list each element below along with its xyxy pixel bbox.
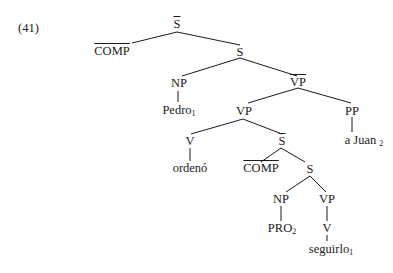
- node-np-subject: NP: [171, 76, 187, 90]
- node-s-inner: S: [307, 162, 314, 176]
- leaf-pro: PRO2: [268, 221, 296, 239]
- node-pp: PP: [345, 104, 359, 118]
- leaf-seguirlo: seguirlo1: [309, 242, 353, 260]
- node-np-inner: NP: [273, 192, 289, 206]
- node-v-inner: V: [322, 221, 331, 235]
- node-sbar-inner: S: [279, 134, 286, 148]
- node-comp-top: COMP: [94, 44, 129, 58]
- node-vp-inner: VP: [319, 192, 335, 206]
- node-comp-inner: COMP: [243, 161, 278, 175]
- leaf-ordeno: ordenó: [173, 161, 208, 175]
- node-root-sbar: S: [174, 17, 181, 31]
- leaf-pedro: Pedro1: [162, 103, 195, 121]
- leaf-a-juan: a Juan 2: [345, 133, 384, 151]
- tree-branches: [0, 0, 393, 273]
- node-v-main: V: [185, 134, 194, 148]
- node-vbar-top: VP: [290, 75, 306, 89]
- node-vp-mid: VP: [236, 104, 252, 118]
- node-s-top: S: [237, 45, 244, 59]
